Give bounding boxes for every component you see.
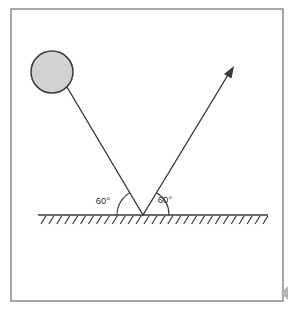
reflection-diagram: 60° 60° bbox=[0, 0, 296, 318]
hatch-line bbox=[239, 216, 244, 224]
ground-hatching bbox=[41, 216, 268, 224]
arrowhead-icon bbox=[224, 66, 234, 79]
hatch-line bbox=[231, 216, 236, 224]
hatch-line bbox=[49, 216, 54, 224]
hatch-line bbox=[104, 216, 109, 224]
incident-angle-label: 60° bbox=[96, 195, 111, 206]
hatch-line bbox=[152, 216, 157, 224]
hatch-line bbox=[192, 216, 197, 224]
hatch-line bbox=[168, 216, 173, 224]
hatch-line bbox=[215, 216, 220, 224]
hatch-line bbox=[57, 216, 62, 224]
hatch-line bbox=[263, 216, 268, 224]
reflected-ray bbox=[143, 70, 231, 215]
hatch-line bbox=[184, 216, 189, 224]
hatch-line bbox=[160, 216, 165, 224]
hatch-line bbox=[176, 216, 181, 224]
hatch-line bbox=[207, 216, 212, 224]
hatch-line bbox=[112, 216, 117, 224]
reflected-angle-label: 60° bbox=[158, 194, 173, 205]
incident-ball bbox=[31, 51, 73, 93]
hatch-line bbox=[89, 216, 94, 224]
hatch-line bbox=[73, 216, 78, 224]
hatch-line bbox=[128, 216, 133, 224]
hatch-line bbox=[223, 216, 228, 224]
hatch-line bbox=[144, 216, 149, 224]
hatch-line bbox=[41, 216, 46, 224]
hatch-line bbox=[96, 216, 101, 224]
hatch-line bbox=[81, 216, 86, 224]
hatch-line bbox=[65, 216, 70, 224]
edge-triangle-marker bbox=[281, 286, 288, 300]
diagram-screenshot: 60° 60° bbox=[0, 0, 296, 318]
hatch-line bbox=[200, 216, 205, 224]
hatch-line bbox=[255, 216, 260, 224]
incident-angle-arc bbox=[117, 193, 130, 215]
hatch-line bbox=[120, 216, 125, 224]
hatch-line bbox=[136, 216, 141, 224]
hatch-line bbox=[247, 216, 252, 224]
